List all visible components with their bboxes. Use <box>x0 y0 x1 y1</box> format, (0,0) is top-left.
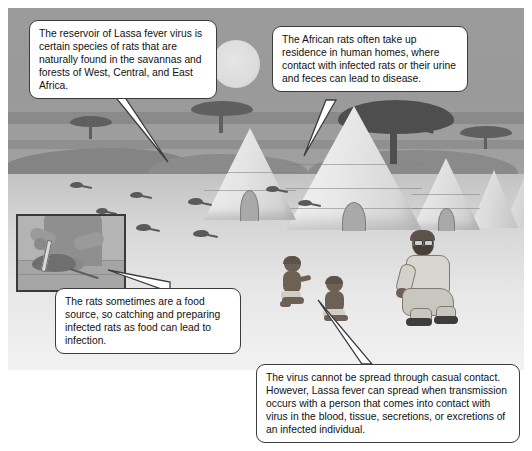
callout-rats-as-food[interactable]: The rats sometimes are a food source, so… <box>55 288 241 354</box>
thatched-hut-3 <box>412 158 480 230</box>
glasses-icon <box>414 240 423 246</box>
figure-root: The reservoir of Lassa fever virus is ce… <box>0 0 532 451</box>
callout-rats-in-homes-text: The African rats often take up residence… <box>282 34 456 84</box>
shoe <box>406 318 432 326</box>
tree-trunk <box>89 125 92 139</box>
callout-tail-person-to-person <box>318 300 376 370</box>
glasses-icon <box>424 240 433 246</box>
shoe <box>434 316 458 324</box>
rat <box>188 198 203 205</box>
rat <box>193 230 209 237</box>
rat <box>70 182 83 188</box>
callout-reservoir[interactable]: The reservoir of Lassa fever virus is ce… <box>29 20 217 99</box>
callout-rats-as-food-text: The rats sometimes are a food source, so… <box>65 296 220 346</box>
rat <box>130 192 143 198</box>
callout-rats-in-homes[interactable]: The African rats often take up residence… <box>272 26 468 92</box>
tree-trunk <box>484 136 487 149</box>
rat <box>266 186 279 192</box>
thatched-hut-1 <box>204 128 296 220</box>
rat <box>136 224 151 231</box>
crouching-child-left <box>276 256 310 308</box>
callout-person-to-person-text: The virus cannot be spread through casua… <box>266 372 507 435</box>
rat <box>298 200 312 206</box>
crouching-adult-man <box>396 230 468 326</box>
callout-person-to-person[interactable]: The virus cannot be spread through casua… <box>256 364 520 443</box>
sun-icon <box>212 40 260 88</box>
callout-reservoir-text: The reservoir of Lassa fever virus is ce… <box>39 28 202 91</box>
callout-tail-rats-in-homes <box>300 100 340 158</box>
